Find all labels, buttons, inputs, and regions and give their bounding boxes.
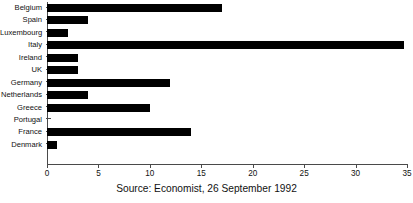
bar-row <box>47 102 407 114</box>
bar-row <box>47 39 407 51</box>
bar <box>47 41 404 49</box>
category-label: Germany <box>0 77 42 89</box>
x-axis-tick <box>407 164 408 168</box>
bar-row <box>47 52 407 64</box>
category-axis-labels: BelgiumSpainLuxembourgItalyIrelandUKGerm… <box>0 2 42 162</box>
category-label: UK <box>0 64 42 76</box>
plot-area <box>47 2 407 162</box>
bar-row <box>47 14 407 26</box>
category-label: Greece <box>0 102 42 114</box>
x-axis-tick <box>98 164 99 168</box>
bar <box>47 79 170 87</box>
bar <box>47 104 150 112</box>
category-label: Belgium <box>0 2 42 14</box>
x-axis-tick <box>150 164 151 168</box>
bar <box>47 128 191 136</box>
x-axis-tick-label: 30 <box>341 169 371 178</box>
category-label: Spain <box>0 14 42 26</box>
x-axis-tick <box>304 164 305 168</box>
bar-row <box>47 139 407 151</box>
bar-row <box>47 114 407 126</box>
category-label: Portugal <box>0 114 42 126</box>
bar-row <box>47 89 407 101</box>
bar-row <box>47 126 407 138</box>
category-label: Ireland <box>0 52 42 64</box>
x-axis-tick-label: 10 <box>135 169 165 178</box>
x-axis-tick-label: 5 <box>83 169 113 178</box>
bar-row <box>47 77 407 89</box>
bar-row <box>47 27 407 39</box>
x-axis-line <box>47 164 407 165</box>
bar <box>47 141 57 149</box>
category-label: Netherlands <box>0 89 42 101</box>
bar-row <box>47 64 407 76</box>
x-axis-tick <box>253 164 254 168</box>
category-label: France <box>0 126 42 138</box>
bar-row <box>47 2 407 14</box>
x-axis-tick <box>47 164 48 168</box>
source-caption: Source: Economist, 26 September 1992 <box>0 183 413 194</box>
x-axis-tick-label: 15 <box>186 169 216 178</box>
bar <box>47 91 88 99</box>
category-label: Italy <box>0 39 42 51</box>
category-label: Luxembourg <box>0 27 42 39</box>
bar <box>47 54 78 62</box>
x-axis-tick <box>201 164 202 168</box>
x-axis-tick-label: 25 <box>289 169 319 178</box>
x-axis-tick-label: 20 <box>238 169 268 178</box>
bar <box>47 16 88 24</box>
bar-chart-figure: BelgiumSpainLuxembourgItalyIrelandUKGerm… <box>0 0 413 203</box>
category-label: Denmark <box>0 139 42 151</box>
x-axis-tick-label: 35 <box>392 169 413 178</box>
bar <box>47 4 222 12</box>
x-axis-tick-label: 0 <box>32 169 62 178</box>
bar <box>47 29 68 37</box>
category-tick <box>46 118 51 119</box>
bar <box>47 66 78 74</box>
x-axis-tick <box>356 164 357 168</box>
